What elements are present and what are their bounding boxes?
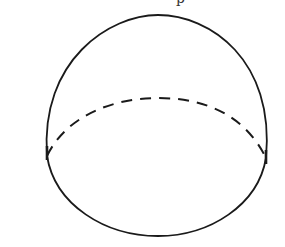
dome-outline [47,15,267,158]
base-hidden-arc [47,98,266,158]
base-front-arc [47,156,266,236]
hemisphere-diagram [0,0,285,247]
